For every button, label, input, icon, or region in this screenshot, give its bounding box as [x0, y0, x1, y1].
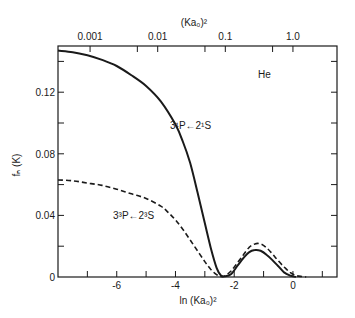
series-singlet-line: [58, 51, 296, 277]
x-tick-label: -2: [230, 280, 239, 291]
y-tick-label: 0.04: [36, 210, 56, 221]
x-tick-label: 0: [290, 280, 296, 291]
plot-border: [58, 46, 337, 277]
top-axis-tick-label: 1.0: [286, 31, 300, 42]
plot-frame: [58, 46, 337, 277]
chart-annotations: He3¹P←2¹S3³P←2³S: [113, 69, 271, 221]
top-x-axis-label: (Ka₀)²: [181, 17, 208, 28]
series-triplet-line: [58, 180, 306, 277]
chart-svg: -6-4-2000.040.080.120.0010.010.11.0 He3¹…: [0, 0, 355, 318]
top-axis-tick-label: 0.001: [78, 31, 103, 42]
y-tick-label: 0: [49, 272, 55, 283]
y-tick-label: 0.08: [36, 149, 56, 160]
element-label-he: He: [258, 69, 271, 80]
line-chart: -6-4-2000.040.080.120.0010.010.11.0 He3¹…: [0, 0, 355, 318]
x-tick-label: -6: [112, 280, 121, 291]
x-tick-label: -4: [171, 280, 180, 291]
y-axis-label: fₙ (K): [11, 154, 22, 177]
x-axis-label: ln (Ka₀)²: [180, 295, 218, 306]
triplet-curve-label: 3³P←2³S: [113, 210, 154, 221]
top-axis-tick-label: 0.1: [218, 31, 232, 42]
top-axis-tick-label: 0.01: [148, 31, 168, 42]
singlet-curve-label: 3¹P←2¹S: [170, 120, 211, 131]
data-series: [58, 51, 306, 277]
axis-ticks: [58, 46, 337, 277]
y-tick-label: 0.12: [36, 87, 56, 98]
